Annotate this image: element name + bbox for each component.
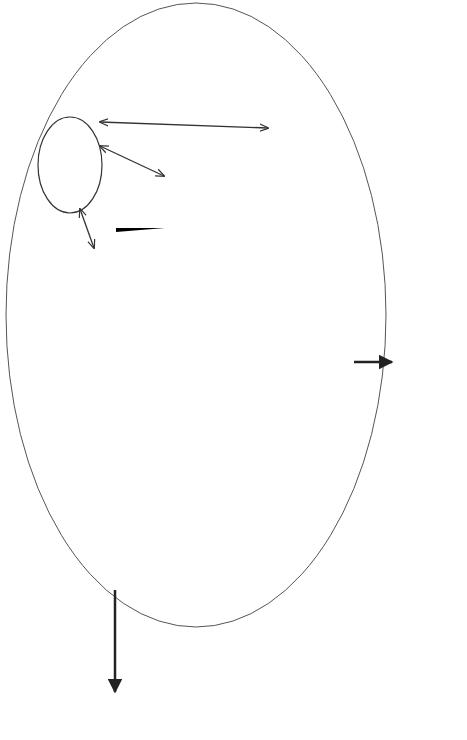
req-forward	[116, 228, 165, 232]
system-analysis-oval	[38, 117, 102, 213]
diagram-lines	[0, 0, 467, 740]
sa-to-functional-arrow	[100, 146, 164, 176]
sa-to-synthesis-arrow	[100, 122, 268, 128]
diagram-stage	[0, 0, 467, 740]
sa-to-requirements-arrow	[80, 209, 94, 248]
process-boundary-ellipse	[6, 3, 386, 627]
